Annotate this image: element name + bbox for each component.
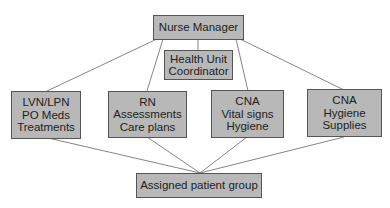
nurse-manager-box: Nurse Manager: [153, 15, 244, 40]
cna1-line-3: Hygiene: [226, 120, 268, 133]
cna2-line-1: CNA: [332, 94, 356, 107]
rn-line-1: RN: [139, 96, 156, 109]
rn-line-2: Assessments: [113, 108, 181, 121]
assigned-patient-group-box: Assigned patient group: [136, 173, 262, 198]
coordinator-line-2: Coordinator: [168, 65, 228, 78]
coordinator-line-1: Health Unit: [170, 53, 227, 66]
cna2-line-3: Supplies: [322, 119, 366, 132]
rn-line-3: Care plans: [120, 121, 176, 134]
nurse-manager-label: Nurse Manager: [159, 21, 238, 34]
rn-box: RN Assessments Care plans: [108, 91, 187, 138]
cna-supplies-box: CNA Hygiene Supplies: [307, 89, 382, 137]
patients-label: Assigned patient group: [140, 179, 258, 192]
lvn-line-3: Treatments: [17, 121, 75, 134]
lvn-line-1: LVN/LPN: [22, 96, 69, 109]
lvn-lpn-box: LVN/LPN PO Meds Treatments: [11, 91, 81, 139]
cna1-line-1: CNA: [235, 95, 259, 108]
lvn-line-2: PO Meds: [22, 109, 70, 122]
cna2-line-2: Hygiene: [323, 107, 365, 120]
cna1-line-2: Vital signs: [221, 108, 273, 121]
cna-vitals-box: CNA Vital signs Hygiene: [211, 90, 284, 138]
health-unit-coordinator-box: Health Unit Coordinator: [164, 50, 233, 80]
